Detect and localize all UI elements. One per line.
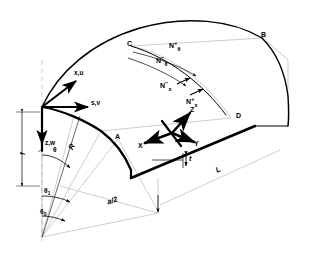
global-axes-triad <box>145 113 194 146</box>
force-Ntheta-minus-sub: θ <box>165 61 168 67</box>
dimension-label-t: t <box>189 155 192 163</box>
force-Nx-plus-arrow <box>190 89 203 95</box>
axis-xu-arrow <box>42 81 76 107</box>
axis-X-arrow <box>145 133 172 143</box>
shell-diagram-figure: A B C D x,u s,v z,w X Y Z f R t L a/2 θ … <box>0 0 313 254</box>
force-Nx-minus-sub: x <box>169 86 172 92</box>
force-label-Nx-minus: N−x <box>160 80 172 92</box>
force-Ntheta-plus-sub: θ <box>178 46 181 52</box>
radius-line <box>42 116 80 237</box>
force-label-Ntheta-plus: N+θ <box>169 40 181 52</box>
angle-label-theta1: θ1 <box>44 188 51 197</box>
point-label-B: B <box>261 31 266 38</box>
force-label-Ntheta-minus: N−θ <box>156 55 168 67</box>
rear-end-arc <box>262 38 289 126</box>
interior-ridge-arc <box>131 46 226 115</box>
axis-label-xu: x,u <box>74 70 83 77</box>
axis-label-Y: Y <box>194 140 199 147</box>
dimension-label-f: f <box>19 153 27 156</box>
angle-label-theta0: θ0 <box>40 209 47 218</box>
diagram-canvas <box>0 0 313 254</box>
axis-label-sv: s,v <box>91 100 100 107</box>
crown-silhouette <box>42 21 262 107</box>
angle-label-theta: θ <box>53 147 57 154</box>
shell-outline <box>42 21 289 178</box>
force-Nx-plus-sub: x <box>195 102 198 108</box>
axis-label-X: X <box>138 142 143 149</box>
point-label-C: C <box>127 40 132 47</box>
angle-theta1-sub: 1 <box>48 190 51 196</box>
point-label-D: D <box>236 112 241 119</box>
angle-theta0-sub: 0 <box>44 211 47 217</box>
force-label-Nx-plus: N+x <box>186 96 198 108</box>
axis-Z-arrow <box>172 113 190 133</box>
dimension-f <box>16 112 40 186</box>
point-label-A: A <box>115 133 120 140</box>
